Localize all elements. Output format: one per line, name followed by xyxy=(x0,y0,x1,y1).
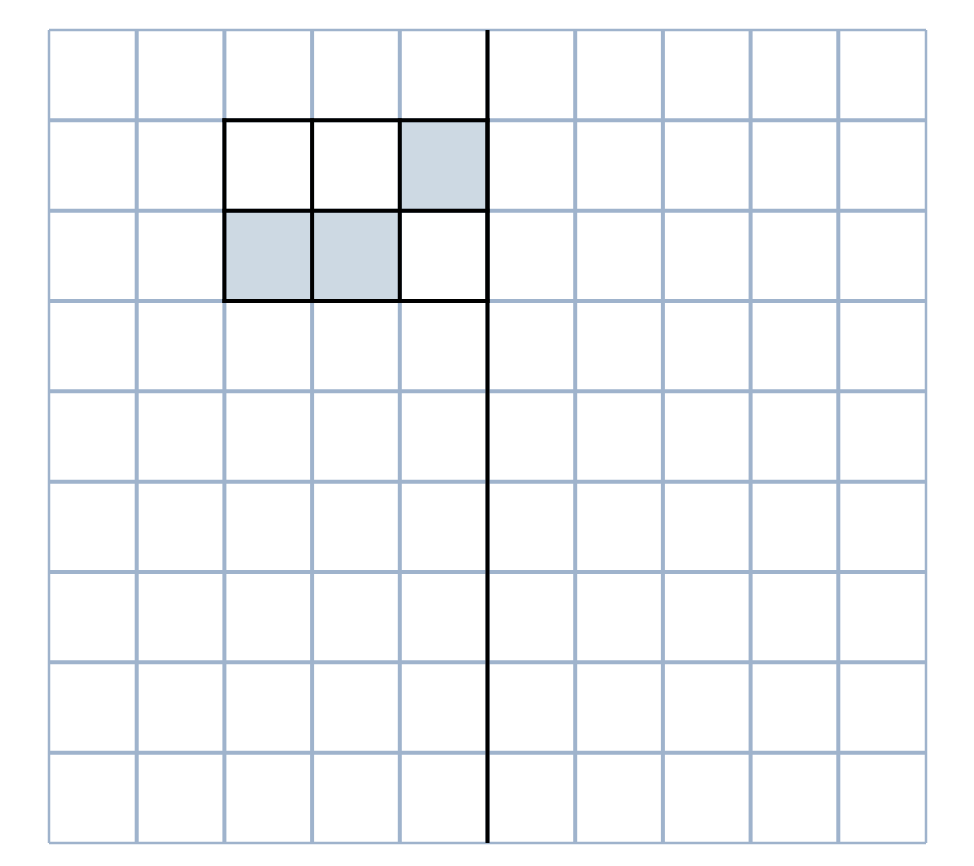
shaded-cell xyxy=(312,211,400,301)
grid-diagram xyxy=(0,0,974,866)
shaded-cell xyxy=(224,211,312,301)
shaded-cell xyxy=(400,120,488,210)
